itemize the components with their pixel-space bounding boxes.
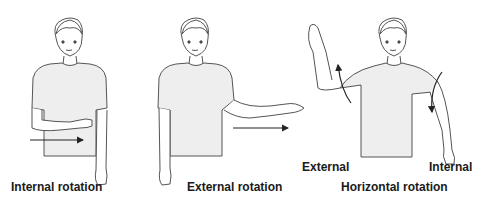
arm-right [430,82,455,164]
arm-right [224,100,304,118]
arm-left [159,108,171,185]
figure-external-rotation [158,18,304,185]
arm-right [95,110,107,185]
rotation-diagram [0,0,480,207]
label-horizontal-internal: Internal [429,160,472,174]
shirt [340,63,438,157]
head [181,18,209,64]
shirt [32,63,107,156]
head [379,18,407,64]
caption-horizontal-rotation: Horizontal rotation [341,180,448,194]
head [55,18,83,64]
figure-horizontal-rotation [309,18,455,164]
label-horizontal-external: External [302,160,349,174]
arm-left [309,24,340,90]
figure-internal-rotation [30,18,107,185]
caption-external-rotation: External rotation [187,180,282,194]
caption-internal-rotation: Internal rotation [11,180,102,194]
